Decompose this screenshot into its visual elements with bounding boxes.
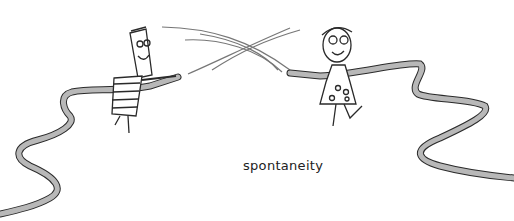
right-hose (290, 64, 514, 178)
illustration-canvas: spontaneity (0, 0, 514, 221)
caption-text: spontaneity (243, 158, 323, 173)
water-spray (162, 27, 300, 74)
left-hose (0, 77, 178, 214)
cartoon-drawing (0, 0, 514, 221)
